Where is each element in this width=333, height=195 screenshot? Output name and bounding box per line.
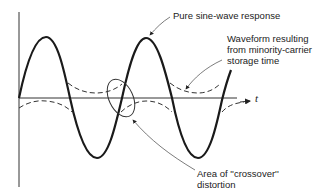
time-axis-label: t <box>255 92 258 104</box>
storage-annotation-line3: storage time <box>227 55 279 66</box>
sine-annotation: Pure sine-wave response <box>173 10 280 21</box>
storage-annotation-line2: from minority-carrier <box>227 44 312 55</box>
sine-leader-line <box>150 17 170 35</box>
crossover-annotation-line2: distortion <box>197 179 236 190</box>
crossover-annotation-line1: Area of ''crossover'' <box>197 168 279 179</box>
time-arrow <box>240 101 250 102</box>
diagram-canvas <box>0 0 333 195</box>
storage-annotation-line1: Waveform resulting <box>227 33 308 44</box>
storage-leader-line <box>186 60 222 89</box>
waveform-diagram: t Pure sine-wave response Waveform resul… <box>0 0 333 195</box>
